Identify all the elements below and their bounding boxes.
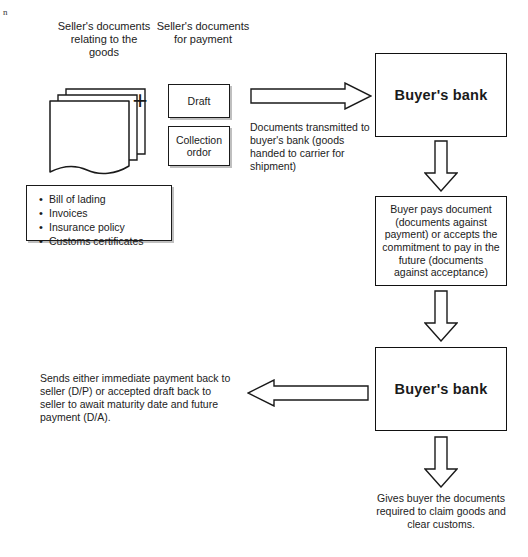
collection-order-box: Collection ordor — [168, 126, 230, 166]
list-item: Customs certificates — [49, 234, 163, 248]
diagram-canvas: n Seller's documents relating to the goo… — [0, 0, 528, 557]
page-corner-mark: n — [3, 8, 8, 17]
list-item: Bill of lading — [49, 192, 163, 206]
node-buyer-pays-document: Buyer pays document (documents against p… — [375, 196, 507, 286]
plus-symbol: + — [128, 87, 152, 113]
arrow-down-pays-to-bank-icon — [424, 290, 458, 342]
draft-box: Draft — [168, 84, 230, 118]
caption-documents-transmitted: Documents transmitted to buyer's bank (g… — [250, 121, 372, 173]
arrow-right-to-bank-icon — [250, 82, 372, 110]
caption-sends-payment-back: Sends either immediate payment back to s… — [40, 372, 236, 424]
node-buyers-bank-bottom: Buyer's bank — [375, 347, 507, 431]
list-item: Invoices — [49, 206, 163, 220]
arrow-down-bank-to-pays-icon — [424, 140, 458, 192]
heading-seller-documents-goods: Seller's documents relating to the goods — [56, 20, 152, 59]
documents-list-box: Bill of lading Invoices Insurance policy… — [26, 185, 172, 241]
documents-list: Bill of lading Invoices Insurance policy… — [37, 192, 163, 248]
heading-seller-documents-payment: Seller's documents for payment — [156, 20, 250, 46]
caption-gives-buyer-documents: Gives buyer the documents required to cl… — [376, 492, 506, 531]
arrow-down-bank-to-buyer-icon — [424, 436, 458, 488]
list-item: Insurance policy — [49, 220, 163, 234]
node-buyers-bank-top: Buyer's bank — [375, 53, 507, 137]
arrow-left-to-seller-icon — [247, 379, 369, 407]
